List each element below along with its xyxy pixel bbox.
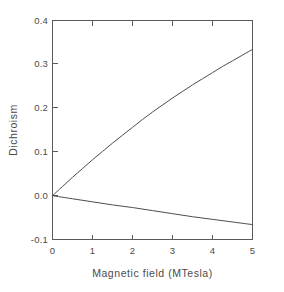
chart-figure: -0.1 0.0 0.1 0.2 0.3 0.4 0 <box>0 0 284 292</box>
y-ticklabel-0: -0.1 <box>31 234 48 245</box>
y-ticklabel-1: 0.0 <box>34 190 48 201</box>
x-ticklabel-0: 0 <box>50 245 55 256</box>
series-lower-branch-line <box>53 196 253 225</box>
data-curves <box>53 49 253 224</box>
y-ticklabel-2: 0.1 <box>34 146 48 157</box>
x-axis-title: Magnetic field (MTesla) <box>92 267 213 279</box>
plot-frame <box>53 21 253 240</box>
series-upper-branch-line <box>53 49 253 195</box>
x-axis-tick-labels: 0 1 2 3 4 5 <box>50 245 255 256</box>
x-ticklabel-3: 3 <box>170 245 175 256</box>
x-ticklabel-2: 2 <box>130 245 135 256</box>
x-ticklabel-4: 4 <box>210 245 215 256</box>
y-axis-title: Dichroism <box>7 104 19 156</box>
y-ticklabel-3: 0.2 <box>34 102 48 113</box>
x-ticklabel-5: 5 <box>250 245 255 256</box>
y-ticklabel-4: 0.3 <box>34 58 48 69</box>
dichroism-vs-magnetic-field-chart: -0.1 0.0 0.1 0.2 0.3 0.4 0 <box>0 0 284 292</box>
y-ticklabel-5: 0.4 <box>34 15 48 26</box>
x-ticklabel-1: 1 <box>90 245 95 256</box>
y-axis-tick-labels: -0.1 0.0 0.1 0.2 0.3 0.4 <box>31 15 48 245</box>
x-axis-ticks <box>53 235 253 240</box>
x-axis-ticks-top <box>53 21 253 26</box>
y-axis-ticks <box>53 21 58 240</box>
